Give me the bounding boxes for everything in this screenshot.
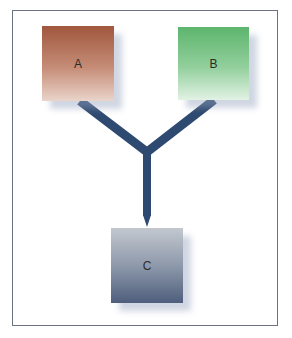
node-b-label: B — [209, 57, 217, 71]
arrow-head-icon — [143, 215, 151, 227]
node-a-label: A — [74, 57, 82, 71]
node-a: A — [42, 26, 114, 101]
edge-a-to-c — [80, 101, 147, 152]
node-c: C — [111, 228, 183, 303]
edge-stem — [143, 150, 151, 216]
node-c-label: C — [143, 259, 152, 273]
node-b: B — [178, 27, 249, 100]
edge-b-to-c — [147, 100, 214, 152]
